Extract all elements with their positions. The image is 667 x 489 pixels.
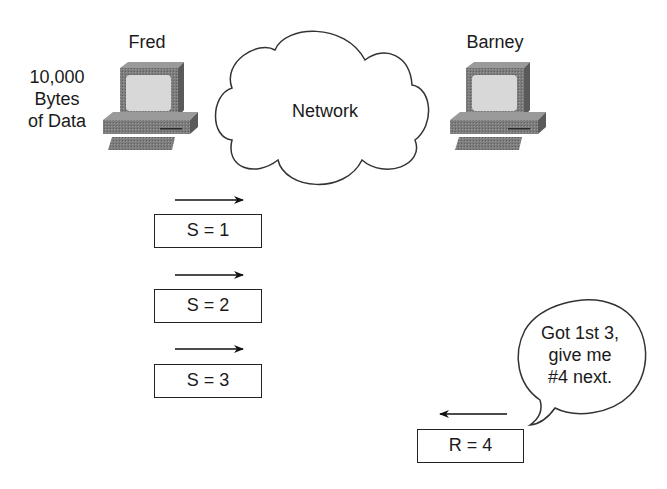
sender-name: Fred [112, 32, 182, 53]
speech-bubble-text: Got 1st 3, give me #4 next. [520, 322, 640, 388]
barney-computer-icon [450, 62, 546, 150]
data-size-note: 10,000 Bytes of Data [18, 66, 96, 132]
segment-box: S = 2 [154, 289, 262, 323]
network-label: Network [280, 101, 370, 122]
bubble-line: Got 1st 3, [520, 322, 640, 344]
bubble-line: #4 next. [520, 366, 640, 388]
ack-box: R = 4 [417, 429, 524, 463]
data-note-line: Bytes [18, 88, 96, 110]
bubble-line: give me [520, 344, 640, 366]
segment-box: S = 3 [154, 364, 262, 398]
diagram-canvas [0, 0, 667, 489]
data-note-line: 10,000 [18, 66, 96, 88]
receiver-name: Barney [460, 32, 530, 53]
fred-computer-icon [103, 62, 198, 150]
data-note-line: of Data [18, 110, 96, 132]
segment-box: S = 1 [154, 214, 262, 248]
